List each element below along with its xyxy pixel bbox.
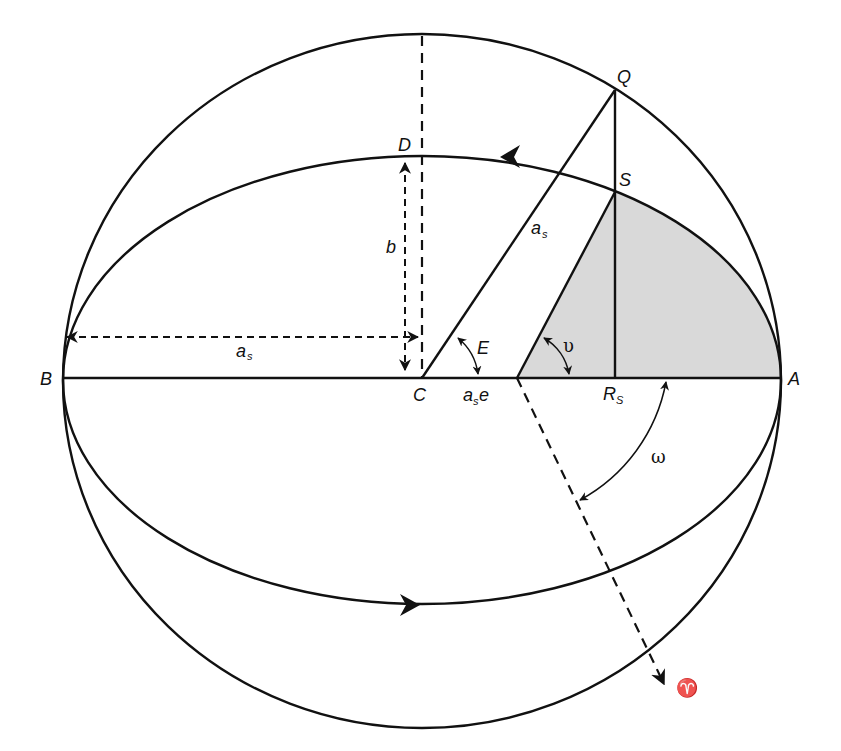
label-c-point: C	[413, 385, 427, 405]
label-d-point: D	[398, 135, 411, 155]
angle-arc-e	[458, 338, 478, 374]
label-argument-of-perigee: ω	[651, 446, 666, 467]
label-ase: a	[463, 385, 473, 405]
label-b-semi-minor: b	[386, 237, 396, 257]
orbital-geometry-diagram: B A C D Q S R S b a s a s a s e E υ ω ♈	[0, 0, 841, 751]
vernal-equinox-icon: ♈	[676, 677, 698, 698]
vernal-equinox-direction	[517, 378, 664, 684]
label-ase-e: e	[479, 385, 489, 405]
label-b-point: B	[40, 369, 52, 389]
label-r-subscript: S	[616, 394, 624, 406]
label-a-point: A	[787, 369, 800, 389]
label-true-anomaly: υ	[563, 335, 574, 356]
orbit-direction-arrow-bottom	[400, 594, 420, 616]
label-eccentric-anomaly: E	[477, 338, 490, 358]
label-r-point: R	[603, 384, 616, 404]
label-as-cq: a	[531, 218, 541, 238]
label-as-left: a	[236, 341, 246, 361]
shaded-swept-area	[517, 192, 781, 378]
label-as-cq-sub: s	[542, 228, 548, 240]
label-q-point: Q	[617, 67, 631, 87]
label-as-left-sub: s	[247, 350, 253, 362]
orbit-direction-arrow-top	[500, 145, 520, 168]
label-s-point: S	[619, 170, 631, 190]
